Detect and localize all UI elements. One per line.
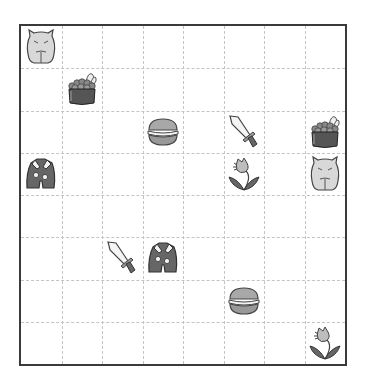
capybara-icon <box>307 155 343 193</box>
jacket-icon <box>23 155 59 193</box>
board-cell-jacket[interactable] <box>21 153 62 195</box>
grid-line-horizontal <box>21 280 345 281</box>
caviar-basket-icon <box>307 113 343 151</box>
board-cell-capybara[interactable] <box>305 153 346 195</box>
jacket-icon <box>145 239 181 277</box>
game-board <box>19 24 347 366</box>
board-cell-macaron[interactable] <box>143 111 184 153</box>
grid-line-horizontal <box>21 111 345 112</box>
board-cell-flower[interactable] <box>305 322 346 364</box>
flower-icon <box>226 155 262 193</box>
board-cell-sword[interactable] <box>102 237 143 279</box>
capybara-icon <box>23 28 59 66</box>
caviar-basket-icon <box>64 70 100 108</box>
macaron-icon <box>226 282 262 320</box>
flower-icon <box>307 324 343 362</box>
board-cell-caviar-basket[interactable] <box>305 111 346 153</box>
game-screen <box>0 0 365 386</box>
board-cell-capybara[interactable] <box>21 26 62 68</box>
grid-line-horizontal <box>21 195 345 196</box>
sword-icon <box>104 239 140 277</box>
sword-icon <box>226 113 262 151</box>
board-cell-jacket[interactable] <box>143 237 184 279</box>
grid-line-horizontal <box>21 237 345 238</box>
board-cell-flower[interactable] <box>224 153 265 195</box>
grid-line-horizontal <box>21 322 345 323</box>
board-cell-macaron[interactable] <box>224 280 265 322</box>
macaron-icon <box>145 113 181 151</box>
board-cell-caviar-basket[interactable] <box>62 68 103 110</box>
grid-line-horizontal <box>21 153 345 154</box>
board-cell-sword[interactable] <box>224 111 265 153</box>
